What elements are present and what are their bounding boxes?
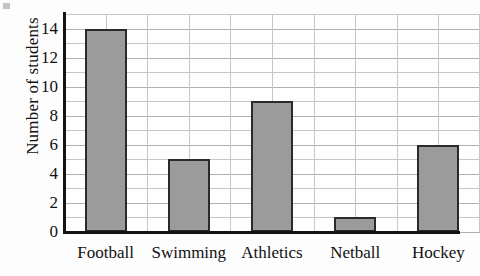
y-tick-label: 8 (18, 107, 58, 124)
y-tick-label: 14 (18, 20, 58, 37)
y-tick-label: 12 (18, 49, 58, 66)
bar-swimming (168, 159, 210, 232)
x-tick-label-hockey: Hockey (397, 240, 480, 266)
y-tick-label: 4 (18, 165, 58, 182)
bar-netball (334, 217, 376, 232)
y-tick-label: 10 (18, 78, 58, 95)
x-axis-category-labels: FootballSwimmingAthleticsNetballHockey (64, 240, 480, 270)
bar-hockey (417, 145, 459, 232)
y-axis-ticks: 02468101214 (12, 14, 58, 232)
x-tick-label-football: Football (64, 240, 147, 266)
bars-layer (64, 14, 480, 232)
x-tick-label-swimming: Swimming (147, 240, 230, 266)
y-tick-label: 6 (18, 136, 58, 153)
x-axis-line (63, 231, 460, 234)
y-tick-label: 2 (18, 194, 58, 211)
bar-chart: Number of students 02468101214 FootballS… (0, 0, 480, 276)
y-axis-line (63, 12, 66, 234)
x-tick-label-athletics: Athletics (230, 240, 313, 266)
x-tick-label-netball: Netball (314, 240, 397, 266)
bar-football (85, 29, 127, 232)
scan-artifact-speck (3, 3, 10, 9)
y-tick-label: 0 (18, 223, 58, 240)
bar-athletics (251, 101, 293, 232)
